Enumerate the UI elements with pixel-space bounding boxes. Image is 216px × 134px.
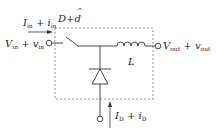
input-current-arrow-icon [28,30,53,34]
diode-terminal [97,116,103,122]
diode-current-arrow-icon [108,101,112,128]
input-terminal [46,40,52,46]
input-voltage-label: Vin + vin [5,38,44,50]
input-current-label: Iin + iin [22,17,57,29]
inductor-icon [117,42,145,46]
output-voltage-label: Vout + vout [163,40,211,52]
diode-current-label: ID + iD [114,110,147,122]
output-terminal [155,43,161,49]
duty-hat: ^ [77,7,83,15]
switch-blade [66,37,78,46]
circuit-diagram: Iin + iin D+d ^ Vin + vin Vout + vout L … [0,0,216,134]
inductor-label: L [127,56,135,67]
dashed-boundary [55,28,153,99]
diode-icon [89,69,111,84]
